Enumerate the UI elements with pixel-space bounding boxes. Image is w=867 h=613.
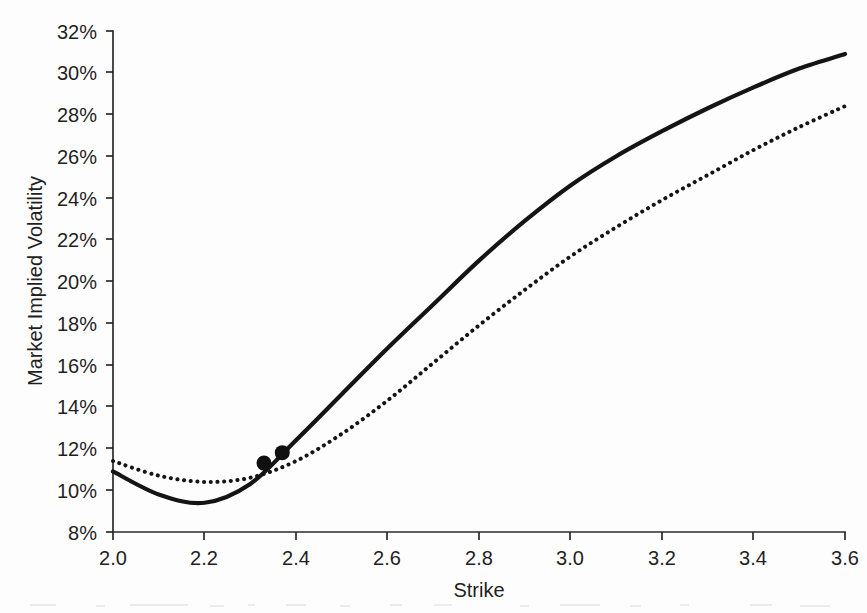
x-tick-label: 3.0 [556, 547, 584, 569]
y-axis-title: Market Implied Volatility [24, 176, 46, 386]
x-tick-label: 3.4 [739, 547, 767, 569]
x-tick-label: 2.4 [282, 547, 310, 569]
y-tick-label: 22% [57, 229, 97, 251]
y-tick-label: 30% [57, 62, 97, 84]
y-tick-label: 26% [57, 146, 97, 168]
y-tick-label: 8% [68, 522, 97, 544]
market-quote-2-marker [275, 445, 290, 460]
x-tick-label: 2.6 [373, 547, 401, 569]
market-quote-1-marker [256, 456, 271, 471]
y-tick-label: 14% [57, 396, 97, 418]
x-tick-label: 2.0 [99, 547, 127, 569]
y-tick-label: 16% [57, 355, 97, 377]
y-tick-label: 28% [57, 104, 97, 126]
x-tick-label: 2.2 [190, 547, 218, 569]
y-tick-label: 20% [57, 271, 97, 293]
y-tick-label: 18% [57, 313, 97, 335]
x-tick-label: 2.8 [465, 547, 493, 569]
y-tick-label: 12% [57, 438, 97, 460]
chart-figure: 32% 30% 28% 26% 24% 22% 20% 18% 16% 14% … [0, 0, 867, 613]
x-tick-labels: 2.0 2.2 2.4 2.6 2.8 3.0 3.2 3.4 3.6 [99, 547, 859, 569]
y-tick-label: 32% [57, 21, 97, 43]
y-tick-label: 24% [57, 188, 97, 210]
y-tick-label: 10% [57, 480, 97, 502]
x-tick-label: 3.2 [648, 547, 676, 569]
x-axis-title: Strike [453, 579, 504, 601]
volatility-smile-chart: 32% 30% 28% 26% 24% 22% 20% 18% 16% 14% … [0, 0, 867, 613]
x-tick-label: 3.6 [831, 547, 859, 569]
